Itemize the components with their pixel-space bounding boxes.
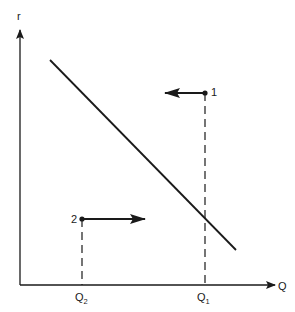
point-1-dot — [202, 90, 207, 95]
point-2-label: 2 — [71, 213, 77, 225]
y-axis-label: r — [17, 10, 21, 22]
x-axis-label: Q — [278, 280, 287, 292]
y-axis: r — [17, 10, 21, 285]
point-2-group: 2 Q2 — [71, 213, 145, 306]
q1-tick-label: Q1 — [197, 291, 210, 306]
point-1-group: 1 Q1 — [165, 86, 217, 306]
x-axis: Q — [20, 280, 287, 292]
demand-line — [50, 60, 236, 250]
q2-tick-label: Q2 — [75, 291, 88, 306]
point-1-label: 1 — [211, 86, 217, 98]
point-2-dot — [79, 216, 84, 221]
diagram-canvas: r Q 1 Q1 2 Q2 — [0, 0, 295, 312]
